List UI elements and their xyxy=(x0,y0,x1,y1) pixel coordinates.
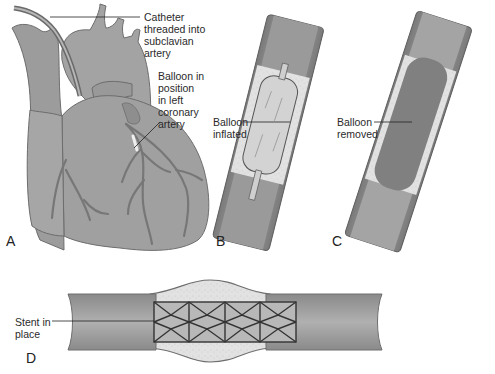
angioplasty-figure: Catheter threaded into subclavian artery… xyxy=(0,0,495,374)
panel-letter-c: C xyxy=(332,233,342,249)
label-balloon-inflated: Balloon inflated xyxy=(213,116,248,140)
label-stent-in-place: Stent in place xyxy=(15,316,51,340)
label-balloon-in-position: Balloon in position in left coronary art… xyxy=(158,70,204,130)
cropped-caption xyxy=(0,367,495,374)
figure-artwork xyxy=(0,0,495,374)
label-balloon-removed: Balloon removed xyxy=(337,116,378,140)
panel-letter-a: A xyxy=(6,233,15,249)
label-catheter: Catheter threaded into subclavian artery xyxy=(144,11,205,59)
panel-letter-d: D xyxy=(26,350,36,366)
panel-letter-b: B xyxy=(216,233,225,249)
